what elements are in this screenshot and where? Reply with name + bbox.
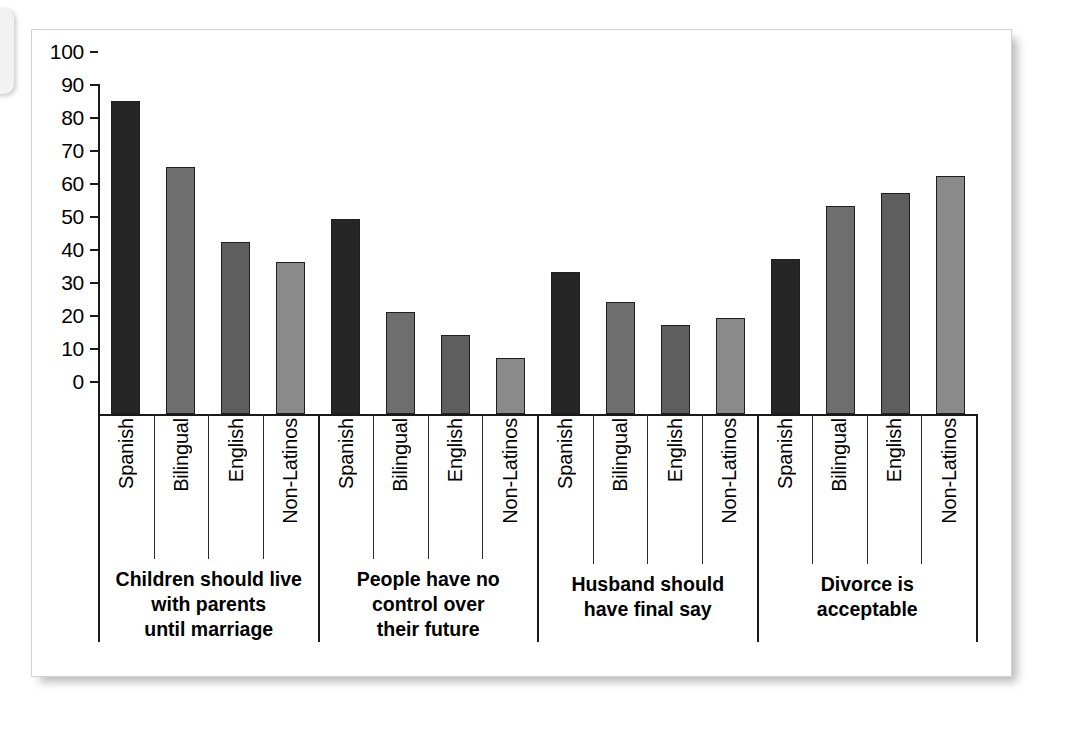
bar[interactable]	[221, 242, 250, 414]
y-axis-tick-mark	[90, 315, 98, 317]
bar[interactable]	[386, 312, 415, 414]
bar[interactable]	[606, 302, 635, 414]
category-label-cell: Spanish	[320, 414, 374, 559]
y-axis-tick-label: 80	[61, 106, 84, 130]
y-axis-tick-label: 70	[61, 139, 84, 163]
y-axis-tick-mark	[90, 150, 98, 152]
y-axis-tick-mark	[90, 51, 98, 53]
group-title-line: People have no	[320, 567, 538, 592]
bar[interactable]	[661, 325, 690, 414]
bar[interactable]	[111, 101, 140, 415]
group-title: Children should livewith parentsuntil ma…	[100, 559, 318, 642]
category-label: Bilingual	[828, 418, 851, 492]
bar[interactable]	[771, 259, 800, 414]
category-label: Bilingual	[609, 418, 632, 492]
group-title-line: Divorce is	[759, 572, 977, 597]
bar-group	[98, 84, 318, 414]
category-label: English	[883, 418, 906, 482]
adjacent-card-edge	[0, 8, 14, 94]
category-label-cell: Spanish	[539, 414, 593, 564]
bar[interactable]	[551, 272, 580, 414]
category-label-cell: Bilingual	[812, 414, 867, 564]
category-label-cell: Bilingual	[154, 414, 209, 559]
y-axis-tick-label: 50	[61, 205, 84, 229]
category-label-cell: Bilingual	[373, 414, 428, 559]
y-axis-tick-label: 0	[73, 370, 84, 394]
y-axis: 0102030405060708090100	[32, 52, 98, 404]
y-axis-tick-label: 10	[61, 337, 84, 361]
bars-layer	[98, 84, 978, 414]
category-label-cell: English	[428, 414, 483, 559]
category-label: Non-Latinos	[718, 418, 741, 524]
bar-slot	[483, 84, 538, 414]
bar[interactable]	[936, 176, 965, 414]
category-label-row: SpanishBilingualEnglishNon-Latinos	[100, 414, 318, 559]
category-label: English	[225, 418, 248, 482]
category-label-cell: English	[647, 414, 702, 564]
category-label: English	[444, 418, 467, 482]
bar-slot	[593, 84, 648, 414]
group-title-line: control over	[320, 592, 538, 617]
category-label: Spanish	[115, 418, 138, 489]
bar-slot	[373, 84, 428, 414]
bar[interactable]	[496, 358, 525, 414]
y-axis-tick-label: 60	[61, 172, 84, 196]
bar-slot	[868, 84, 923, 414]
group-title: People have nocontrol overtheir future	[320, 559, 538, 642]
y-axis-tick-mark	[90, 84, 98, 86]
group-title-line: with parents	[100, 592, 318, 617]
category-label-cell: Bilingual	[593, 414, 648, 564]
category-label-cell: Spanish	[100, 414, 154, 559]
category-label-cell: English	[208, 414, 263, 559]
bar[interactable]	[826, 206, 855, 414]
bar[interactable]	[276, 262, 305, 414]
bar[interactable]	[166, 167, 195, 415]
group-title: Divorce isacceptable	[759, 564, 977, 642]
group-title: Husband shouldhave final say	[539, 564, 757, 642]
category-label: Spanish	[554, 418, 577, 489]
x-axis-group: SpanishBilingualEnglishNon-LatinosDivorc…	[757, 414, 977, 642]
bar-slot	[208, 84, 263, 414]
y-axis-tick-label: 40	[61, 238, 84, 262]
y-axis-tick-label: 30	[61, 271, 84, 295]
y-axis-tick-mark	[90, 282, 98, 284]
y-axis-tick-label: 20	[61, 304, 84, 328]
group-title-line: acceptable	[759, 597, 977, 622]
bar-slot	[538, 84, 593, 414]
y-axis-tick-label: 90	[61, 73, 84, 97]
bar-group	[758, 84, 978, 414]
category-label: Non-Latinos	[279, 418, 302, 524]
category-label: Bilingual	[389, 418, 412, 492]
bar-slot	[428, 84, 483, 414]
category-label-cell: English	[867, 414, 922, 564]
bar-group	[538, 84, 758, 414]
group-title-line: Husband should	[539, 572, 757, 597]
bar[interactable]	[716, 318, 745, 414]
y-axis-tick-mark	[90, 117, 98, 119]
bar[interactable]	[881, 193, 910, 414]
y-axis-tick-mark	[90, 216, 98, 218]
category-label-row: SpanishBilingualEnglishNon-Latinos	[320, 414, 538, 559]
bar[interactable]	[331, 219, 360, 414]
bar-slot	[263, 84, 318, 414]
bar-group	[318, 84, 538, 414]
x-axis-label-band: SpanishBilingualEnglishNon-LatinosChildr…	[98, 414, 978, 642]
bar-slot	[758, 84, 813, 414]
category-label-cell: Spanish	[759, 414, 813, 564]
group-title-line: Children should live	[100, 567, 318, 592]
bar[interactable]	[441, 335, 470, 414]
y-axis-tick-mark	[90, 183, 98, 185]
y-axis-tick-label: 100	[50, 40, 84, 64]
x-axis-group: SpanishBilingualEnglishNon-LatinosHusban…	[537, 414, 757, 642]
category-label: English	[664, 418, 687, 482]
category-label-cell: Non-Latinos	[921, 414, 976, 564]
bar-slot	[98, 84, 153, 414]
category-label-row: SpanishBilingualEnglishNon-Latinos	[759, 414, 977, 564]
group-title-line: their future	[320, 617, 538, 642]
bar-slot	[648, 84, 703, 414]
figure-card: 0102030405060708090100 SpanishBilingualE…	[31, 29, 1012, 677]
bar-slot	[318, 84, 373, 414]
category-label: Bilingual	[170, 418, 193, 492]
category-label: Spanish	[774, 418, 797, 489]
group-title-line: until marriage	[100, 617, 318, 642]
